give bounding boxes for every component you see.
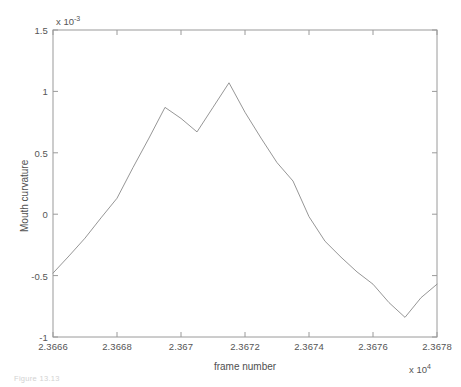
y-axis-title: Mouth curvature bbox=[19, 160, 30, 232]
data-series-line bbox=[53, 83, 437, 318]
figure-caption: Figure 13.13 bbox=[14, 374, 60, 383]
x-axis-title: frame number bbox=[214, 361, 276, 372]
x-tick-label: 2.3674 bbox=[294, 341, 324, 352]
x-tick-label: 2.3668 bbox=[102, 341, 132, 352]
x-tick-label: 2.3676 bbox=[358, 341, 388, 352]
x-tick-label: 2.3672 bbox=[230, 341, 260, 352]
y-tick-label: -0.5 bbox=[8, 270, 48, 281]
chart-canvas bbox=[0, 0, 461, 387]
x-tick-label: 2.367 bbox=[169, 341, 193, 352]
x-tick-label: 2.3678 bbox=[422, 341, 452, 352]
figure-container: 1.510.50-0.5-1 2.36662.36682.3672.36722.… bbox=[0, 0, 461, 387]
y-tick-label: 1 bbox=[8, 86, 48, 97]
x-tick-label: 2.3666 bbox=[38, 341, 68, 352]
y-tick-label: 1.5 bbox=[8, 25, 48, 36]
y-axis-exponent: x 10-3 bbox=[56, 15, 80, 27]
x-axis-exponent: x 104 bbox=[409, 363, 431, 375]
y-tick-label: 0.5 bbox=[8, 147, 48, 158]
